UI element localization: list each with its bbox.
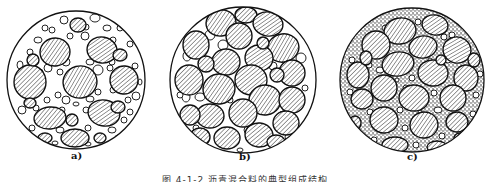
coarse-aggregate-particle [27, 54, 39, 66]
panel-label-c: c) [407, 151, 418, 162]
fine-aggregate-particle [44, 97, 50, 103]
coarse-aggregate-particle [468, 53, 480, 67]
coarse-aggregate-particle [113, 49, 127, 61]
fine-aggregate-particle [55, 92, 61, 98]
coarse-aggregate-particle [14, 65, 46, 99]
coarse-aggregate-particle [351, 89, 373, 109]
fine-aggregate-particle [434, 107, 442, 113]
fine-aggregate-particle [18, 106, 26, 114]
coarse-aggregate-particle [436, 55, 446, 65]
fine-aggregate-particle [473, 92, 479, 98]
coarse-aggregate-particle [70, 18, 86, 32]
coarse-aggregate-particle [198, 56, 214, 72]
coarse-aggregate-particle [94, 133, 106, 143]
coarse-aggregate-particle [257, 37, 269, 49]
fine-aggregate-particle [67, 33, 73, 39]
coarse-aggregate-particle [360, 51, 372, 65]
fine-aggregate-particle [85, 125, 91, 131]
fine-aggregate-particle [125, 97, 131, 103]
fine-aggregate-particle [62, 96, 70, 104]
fine-aggregate-particle [441, 34, 447, 40]
coarse-aggregate-particle [66, 114, 78, 126]
coarse-aggregate-particle [270, 68, 284, 82]
coarse-aggregate-particle [24, 98, 36, 108]
figure-caption: 图 4-1-2 沥青混合料的典型组成结构 [0, 173, 490, 182]
fine-aggregate-particle [302, 85, 308, 91]
fine-aggregate-particle [108, 127, 116, 133]
structure-panel-c [340, 8, 484, 153]
fine-aggregate-particle [103, 25, 111, 31]
fine-aggregate-particle [132, 63, 138, 69]
fine-aggregate-particle [57, 69, 63, 75]
fine-aggregate-particle [29, 125, 35, 131]
fine-aggregate-particle [121, 117, 127, 123]
fine-aggregate-particle [34, 37, 42, 43]
coarse-aggregate-particle [183, 31, 209, 59]
fine-aggregate-particle [42, 25, 48, 31]
structure-panel-b [170, 7, 316, 153]
coarse-aggregate-particle [279, 87, 305, 113]
panel-label-b: b) [239, 151, 251, 162]
fine-aggregate-particle [81, 32, 89, 40]
coarse-aggregate-particle [212, 49, 240, 75]
fine-aggregate-particle [415, 19, 421, 25]
fine-aggregate-particle [132, 92, 140, 100]
coarse-aggregate-particle [226, 23, 252, 49]
fine-aggregate-particle [431, 90, 437, 96]
fine-aggregate-particle [439, 133, 445, 139]
fine-aggregate-particle [402, 125, 408, 131]
structure-panel-a [7, 11, 145, 149]
fine-aggregate-particle [127, 41, 133, 47]
fine-aggregate-particle [127, 109, 133, 115]
coarse-aggregate-particle [175, 65, 203, 95]
coarse-aggregate-particle [440, 85, 466, 111]
fine-aggregate-particle [107, 65, 113, 71]
coarse-aggregate-particle [371, 75, 397, 101]
coarse-aggregate-particle [229, 99, 257, 127]
fine-aggregate-particle [60, 16, 68, 24]
fine-aggregate-particle [49, 27, 55, 33]
fine-aggregate-particle [413, 142, 419, 148]
coarse-aggregate-particle [61, 129, 89, 147]
panel-label-a: a) [71, 150, 82, 161]
fine-aggregate-particle [73, 102, 79, 106]
fine-aggregate-particle [95, 89, 101, 95]
coarse-aggregate-particle [214, 127, 240, 149]
fine-aggregate-particle [397, 107, 403, 113]
coarse-aggregate-particle [399, 85, 429, 111]
coarse-aggregate-particle [111, 101, 125, 113]
coarse-aggregate-particle [347, 62, 369, 88]
fine-aggregate-particle [409, 75, 415, 81]
